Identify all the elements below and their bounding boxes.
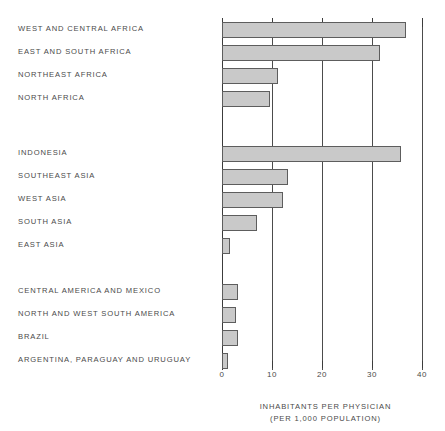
xtick-label-20: 20 — [307, 370, 337, 379]
gridline-20 — [322, 21, 323, 370]
category-label: WEST AND CENTRAL AFRICA — [18, 24, 144, 34]
bar — [222, 215, 257, 231]
bar-chart: WEST AND CENTRAL AFRICA EAST AND SOUTH A… — [0, 0, 445, 431]
bottom-tick-40 — [422, 361, 423, 368]
xtick-label-0: 0 — [207, 370, 237, 379]
bar — [222, 307, 236, 323]
xtick-label-10: 10 — [257, 370, 287, 379]
category-label: ARGENTINA, PARAGUAY AND URUGUAY — [18, 355, 191, 365]
bottom-tick-10 — [272, 361, 273, 368]
bar — [222, 22, 406, 38]
gridline-30 — [372, 21, 373, 370]
xtick-label-40: 40 — [407, 370, 437, 379]
category-label: NORTH AND WEST SOUTH AMERICA — [18, 309, 175, 319]
x-axis-title: INHABITANTS PER PHYSICIAN — [103, 402, 445, 411]
bar — [222, 330, 238, 346]
bar — [222, 91, 270, 107]
bar — [222, 353, 228, 369]
bar — [222, 284, 238, 300]
bar — [222, 45, 380, 61]
bottom-tick-20 — [322, 361, 323, 368]
bottom-tick-30 — [372, 361, 373, 368]
category-label: WEST ASIA — [18, 194, 66, 204]
category-label: NORTH AFRICA — [18, 93, 85, 103]
xtick-label-30: 30 — [357, 370, 387, 379]
category-label: EAST ASIA — [18, 240, 64, 250]
plot-area: 0 10 20 30 40 INHABITANTS PER PHYSICIAN … — [222, 18, 424, 368]
bar — [222, 169, 288, 185]
bar — [222, 146, 401, 162]
bar — [222, 192, 283, 208]
category-label: NORTHEAST AFRICA — [18, 70, 108, 80]
category-label: SOUTH ASIA — [18, 217, 72, 227]
bar — [222, 238, 230, 254]
gridline-40 — [422, 21, 423, 370]
category-label: BRAZIL — [18, 332, 50, 342]
category-label: SOUTHEAST ASIA — [18, 171, 95, 181]
category-label: INDONESIA — [18, 148, 67, 158]
category-label: CENTRAL AMERICA AND MEXICO — [18, 286, 161, 296]
bar — [222, 68, 278, 84]
top-tick-40 — [422, 18, 423, 27]
category-label: EAST AND SOUTH AFRICA — [18, 47, 132, 57]
x-axis-subtitle: (PER 1,000 POPULATION) — [103, 414, 445, 423]
